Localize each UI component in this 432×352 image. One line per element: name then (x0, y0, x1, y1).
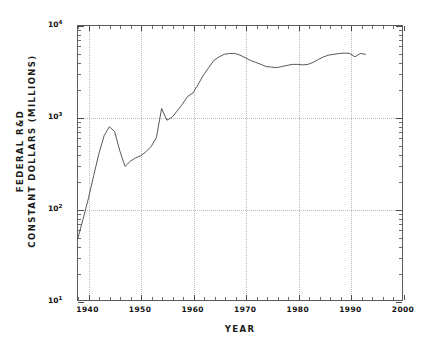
x-tick-label: 1960 (181, 305, 203, 314)
y-tick-major (78, 118, 84, 119)
x-tick-minor (215, 297, 216, 300)
y-tick-minor (399, 46, 402, 47)
x-tick-minor (278, 26, 279, 29)
x-tick-label: 1980 (287, 305, 309, 314)
chart-figure: FEDERAL R&D CONSTANT DOLLARS (MILLIONS) … (0, 0, 432, 352)
y-tick-major (78, 210, 84, 211)
x-tick-minor (131, 297, 132, 300)
x-tick-label: 1990 (339, 305, 361, 314)
y-tick-minor (78, 46, 81, 47)
y-tick-minor (399, 219, 402, 220)
y-tick-major (396, 210, 402, 211)
y-tick-major (396, 118, 402, 119)
y-tick-minor (399, 138, 402, 139)
y-tick-minor (399, 214, 402, 215)
x-tick-label: 1970 (234, 305, 256, 314)
x-tick-minor (309, 26, 310, 29)
x-tick-major (89, 26, 90, 31)
x-tick-minor (341, 26, 342, 29)
x-tick-minor (131, 26, 132, 29)
y-tick-major (396, 302, 402, 303)
y-tick-minor (78, 146, 81, 147)
x-tick-minor (309, 297, 310, 300)
y-tick-minor (399, 35, 402, 36)
x-tick-major (89, 295, 90, 300)
x-tick-minor (372, 26, 373, 29)
x-tick-minor (183, 26, 184, 29)
x-tick-major (194, 26, 195, 31)
x-tick-minor (236, 297, 237, 300)
x-tick-minor (99, 26, 100, 29)
y-tick-minor (399, 127, 402, 128)
x-tick-major (246, 26, 247, 31)
y-tick-minor (399, 155, 402, 156)
x-tick-minor (341, 297, 342, 300)
x-tick-minor (99, 297, 100, 300)
x-tick-minor (204, 297, 205, 300)
x-tick-minor (288, 26, 289, 29)
y-tick-minor (78, 90, 81, 91)
x-tick-label: 1940 (76, 305, 98, 314)
y-tick-minor (399, 146, 402, 147)
x-tick-minor (278, 297, 279, 300)
y-tick-minor (78, 224, 81, 225)
y-tick-minor (399, 182, 402, 183)
y-tick-major (78, 302, 84, 303)
y-tick-minor (78, 30, 81, 31)
y-tick-minor (78, 166, 81, 167)
y-tick-minor (78, 219, 81, 220)
x-tick-minor (372, 297, 373, 300)
y-tick-minor (78, 238, 81, 239)
x-tick-minor (183, 297, 184, 300)
y-tick-minor (399, 274, 402, 275)
x-tick-major (299, 295, 300, 300)
y-tick-label: 103 (48, 112, 62, 121)
y-tick-minor (399, 132, 402, 133)
y-tick-minor (399, 247, 402, 248)
y-tick-minor (78, 35, 81, 36)
x-tick-major (141, 295, 142, 300)
y-tick-minor (78, 132, 81, 133)
y-tick-label: 102 (48, 204, 62, 213)
x-tick-minor (267, 297, 268, 300)
y-tick-minor (78, 247, 81, 248)
y-tick-minor (78, 74, 81, 75)
x-tick-minor (120, 26, 121, 29)
y-tick-minor (78, 127, 81, 128)
y-tick-minor (78, 122, 81, 123)
gridline-vertical (194, 26, 195, 300)
x-tick-minor (362, 26, 363, 29)
x-tick-minor (173, 26, 174, 29)
y-tick-minor (399, 54, 402, 55)
x-tick-minor (110, 26, 111, 29)
x-tick-minor (215, 26, 216, 29)
x-tick-label: 1950 (129, 305, 151, 314)
x-tick-minor (393, 297, 394, 300)
x-tick-minor (173, 297, 174, 300)
plot-area (77, 25, 403, 301)
y-tick-minor (78, 182, 81, 183)
x-tick-major (246, 295, 247, 300)
x-tick-minor (393, 26, 394, 29)
x-tick-minor (383, 297, 384, 300)
x-tick-minor (288, 297, 289, 300)
x-tick-minor (225, 297, 226, 300)
gridline-vertical (299, 26, 300, 300)
x-tick-label: 2000 (392, 305, 414, 314)
x-tick-major (404, 295, 405, 300)
y-tick-minor (399, 224, 402, 225)
gridline-vertical (141, 26, 142, 300)
x-tick-minor (152, 26, 153, 29)
y-tick-minor (399, 63, 402, 64)
x-tick-minor (257, 26, 258, 29)
y-tick-minor (78, 230, 81, 231)
gridline-horizontal (78, 210, 402, 211)
y-tick-major (78, 26, 84, 27)
x-tick-major (194, 295, 195, 300)
y-tick-minor (399, 258, 402, 259)
y-tick-minor (78, 40, 81, 41)
y-tick-minor (399, 74, 402, 75)
x-tick-minor (330, 26, 331, 29)
y-axis-title-line-2: CONSTANT DOLLARS (MILLIONS) (26, 54, 38, 247)
x-tick-major (404, 26, 405, 31)
